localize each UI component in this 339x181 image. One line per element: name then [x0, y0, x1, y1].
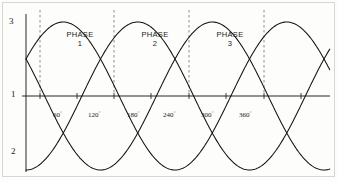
degree-sign-120: °: [99, 110, 101, 115]
degree-label-120: 120°: [88, 112, 101, 119]
degree-label-300-value: 300: [201, 111, 212, 119]
phase-annotation-3-number: 3: [210, 39, 250, 48]
phase-annotation-3: PHASE 3: [210, 30, 250, 49]
y-axis-label-mid: 1: [11, 90, 16, 99]
degree-sign-60: °: [60, 110, 62, 115]
phase-annotation-1-word: PHASE: [60, 30, 100, 39]
degree-sign-240: °: [174, 110, 176, 115]
phase-annotation-2: PHASE 2: [135, 30, 175, 49]
phase-annotation-3-word: PHASE: [210, 30, 250, 39]
degree-label-300: 300°: [201, 112, 214, 119]
degree-label-360-value: 360: [239, 111, 250, 119]
y-axis-label-top: 3: [9, 17, 14, 26]
degree-label-240-value: 240: [163, 111, 174, 119]
degree-label-360: 360°: [239, 112, 252, 119]
phase-annotation-1-number: 1: [60, 39, 100, 48]
dashed-gridlines: [40, 10, 264, 96]
degree-label-180: 180°: [127, 112, 140, 119]
degree-label-180-value: 180: [127, 111, 138, 119]
phase-annotation-2-number: 2: [135, 39, 175, 48]
degree-label-60: 60°: [53, 112, 62, 119]
phase-annotation-2-word: PHASE: [135, 30, 175, 39]
degree-sign-180: °: [138, 110, 140, 115]
sine-wave-figure: 3 1 2 60° 120° 180° 240° 300° 360° PHASE…: [0, 0, 339, 181]
degree-sign-360: °: [250, 110, 252, 115]
sine-wave-plot: [0, 0, 339, 181]
degree-label-120-value: 120: [88, 111, 99, 119]
y-axis-label-bottom: 2: [11, 147, 16, 156]
degree-label-60-value: 60: [53, 111, 60, 119]
degree-sign-300: °: [212, 110, 214, 115]
phase-annotation-1: PHASE 1: [60, 30, 100, 49]
degree-label-240: 240°: [163, 112, 176, 119]
